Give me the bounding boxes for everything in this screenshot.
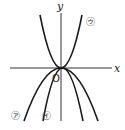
- curve-label-a: ㋐: [11, 111, 20, 121]
- parabola-diagram: x y O ㋒ ㋐ ㋑: [0, 0, 125, 130]
- curve-label-i: ㋑: [42, 111, 51, 121]
- curve-label-u: ㋒: [86, 17, 95, 27]
- x-axis-label: x: [114, 62, 121, 75]
- y-axis-label: y: [56, 0, 64, 13]
